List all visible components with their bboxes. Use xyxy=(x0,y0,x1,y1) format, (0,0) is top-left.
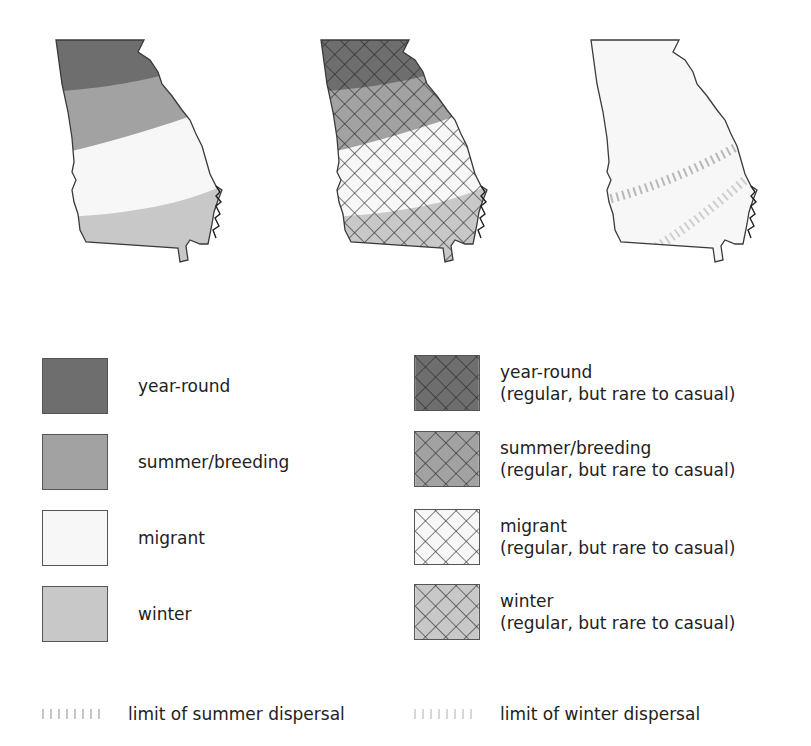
legend-item-year-round-rare: year-round (regular, but rare to casual) xyxy=(414,355,735,411)
legend-item-winter: winter xyxy=(42,586,192,642)
swatch-winter xyxy=(42,586,108,642)
summer-dispersal-tick-icon xyxy=(40,707,108,721)
state-fill xyxy=(585,34,765,274)
legend-label: winter xyxy=(500,590,735,612)
legend-item-summer-breeding-rare: summer/breeding (regular, but rare to ca… xyxy=(414,431,735,487)
legend-label: limit of winter dispersal xyxy=(500,703,700,725)
legend-label: year-round xyxy=(138,375,230,397)
legend-label: summer/breeding xyxy=(500,437,735,459)
legend-item-summer-breeding: summer/breeding xyxy=(42,434,289,490)
legend-sublabel: (regular, but rare to casual) xyxy=(500,612,735,634)
legend-item-migrant-rare: migrant (regular, but rare to casual) xyxy=(414,509,735,565)
legend-item-migrant: migrant xyxy=(42,510,205,566)
map-solid-bands xyxy=(40,34,240,274)
hatched-swatch-year-round xyxy=(414,355,480,411)
legend-item-summer-dispersal: limit of summer dispersal xyxy=(40,703,345,725)
legend-label: migrant xyxy=(500,515,735,537)
swatch-year-round xyxy=(42,358,108,414)
hatched-swatch-summer-breeding xyxy=(414,431,480,487)
legend-sublabel: (regular, but rare to casual) xyxy=(500,537,735,559)
legend-label: migrant xyxy=(138,527,205,549)
hatched-swatch-migrant xyxy=(414,509,480,565)
legend-item-year-round: year-round xyxy=(42,358,230,414)
winter-dispersal-tick-icon xyxy=(412,707,480,721)
hatch-overlay xyxy=(315,34,495,274)
hatched-swatch-winter xyxy=(414,584,480,640)
legend-item-winter-dispersal: limit of winter dispersal xyxy=(412,703,700,725)
legend-label: limit of summer dispersal xyxy=(128,703,345,725)
georgia-map-solid xyxy=(40,34,240,274)
legend-sublabel: (regular, but rare to casual) xyxy=(500,459,735,481)
map-hatched-bands xyxy=(305,34,505,274)
legend-label: winter xyxy=(138,603,192,625)
legend-sublabel: (regular, but rare to casual) xyxy=(500,383,735,405)
legend-item-winter-rare: winter (regular, but rare to casual) xyxy=(414,584,735,640)
legend-label: summer/breeding xyxy=(138,451,289,473)
swatch-summer-breeding xyxy=(42,434,108,490)
legend-label: year-round xyxy=(500,361,735,383)
map-dispersal-limits xyxy=(575,34,775,274)
georgia-map-dispersal xyxy=(575,34,775,274)
swatch-migrant xyxy=(42,510,108,566)
georgia-map-hatched xyxy=(305,34,505,274)
